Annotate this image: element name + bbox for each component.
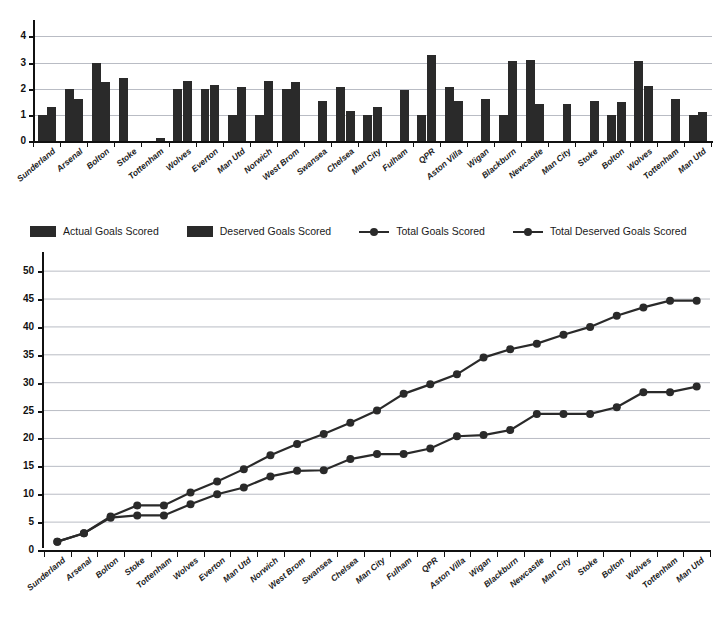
bar-actual: [38, 115, 47, 141]
bar-chart-x-label-text: Bolton: [600, 146, 627, 171]
bar-chart-x-label-text: Man Utd: [676, 146, 708, 175]
line-chart-x-axis-line: [42, 550, 710, 552]
bar-chart-y-tick-label: 4: [8, 31, 26, 41]
line-data-point: [639, 303, 647, 311]
legend-item[interactable]: Actual Goals Scored: [30, 226, 159, 237]
legend-label: Total Goals Scored: [396, 226, 485, 237]
bar-chart-y-tick-label: 1: [8, 110, 26, 120]
line-chart-x-label-text: Fulham: [384, 555, 414, 582]
line-data-point: [320, 466, 328, 474]
line-chart-x-tick: [337, 550, 338, 557]
bar-chart-x-tick: [277, 141, 278, 147]
bar-chart: SunderlandArsenalBoltonStokeTottenhamWol…: [0, 0, 718, 210]
line-chart-x-tick: [470, 550, 471, 557]
line-data-point: [559, 331, 567, 339]
legend-swatch: [187, 226, 213, 237]
line-data-point: [213, 490, 221, 498]
line-chart-y-tick-label: 45: [10, 294, 34, 304]
line-chart-x-tick: [364, 550, 365, 557]
line-data-point: [373, 450, 381, 458]
line-chart-x-tick: [550, 550, 551, 557]
bar-deserved: [373, 107, 382, 141]
bar-chart-y-tick-label: 0: [8, 136, 26, 146]
line-data-point: [266, 451, 274, 459]
bar-chart-x-tick: [169, 141, 170, 147]
line-chart-y-tick-label: 25: [10, 406, 34, 416]
bar-actual: [445, 87, 454, 141]
bar-chart-x-tick: [304, 141, 305, 147]
bar-deserved: [508, 61, 517, 141]
bar-chart-gridline: [34, 63, 712, 64]
bar-chart-x-tick: [494, 141, 495, 147]
bar-chart-x-tick: [548, 141, 549, 147]
legend-item[interactable]: Deserved Goals Scored: [187, 226, 331, 237]
bar-chart-x-tick: [413, 141, 414, 147]
bar-chart-x-tick: [87, 141, 88, 147]
line-data-point: [133, 511, 141, 519]
bar-actual: [417, 115, 426, 141]
bar-chart-x-tick: [250, 141, 251, 147]
bar-chart-y-tick-label: 2: [8, 84, 26, 94]
bar-chart-y-tick-label: 3: [8, 58, 26, 68]
line-chart-y-tick-label: 5: [10, 517, 34, 527]
bar-actual: [282, 89, 291, 141]
bar-chart-x-label-text: Wolves: [164, 146, 193, 173]
line-data-point: [506, 345, 514, 353]
bar-chart-gridline: [34, 89, 712, 90]
bar-deserved: [671, 99, 680, 141]
bar-deserved: [427, 55, 436, 141]
bar-deserved: [47, 107, 56, 141]
line-data-point: [346, 419, 354, 427]
bar-deserved: [74, 99, 83, 141]
line-data-point: [586, 410, 594, 418]
line-data-point: [213, 477, 221, 485]
line-data-point: [639, 388, 647, 396]
line-chart-y-tick-label: 20: [10, 433, 34, 443]
bar-chart-x-tick: [386, 141, 387, 147]
line-data-point: [346, 455, 354, 463]
bar-actual: [201, 89, 210, 141]
line-chart-x-tick: [497, 550, 498, 557]
line-chart-x-label-text: Bolton: [599, 555, 626, 580]
line-data-point: [480, 431, 488, 439]
bar-chart-x-tick: [33, 141, 34, 147]
bar-deserved: [183, 81, 192, 141]
line-data-point: [533, 410, 541, 418]
bar-chart-x-label-text: Everton: [189, 146, 220, 174]
line-chart-x-label-text: Wolves: [171, 555, 200, 582]
line-chart-x-tick: [124, 550, 125, 557]
bar-deserved: [346, 111, 355, 141]
line-data-point: [240, 484, 248, 492]
bar-deserved: [590, 101, 599, 142]
legend-line-dot: [524, 228, 532, 236]
bar-chart-plot-area: [34, 26, 712, 141]
bar-deserved: [318, 101, 327, 142]
bar-deserved: [481, 99, 490, 141]
bar-chart-x-tick: [603, 141, 604, 147]
bar-chart-x-label-text: Fulham: [380, 146, 410, 173]
line-data-point: [400, 450, 408, 458]
line-data-point: [107, 514, 115, 522]
line-chart-svg: [44, 260, 710, 550]
bar-actual: [689, 115, 698, 141]
line-chart-x-label-text: Man Utd: [221, 555, 253, 584]
bar-chart-x-tick: [657, 141, 658, 147]
legend-item[interactable]: Total Deserved Goals Scored: [513, 226, 687, 237]
bar-actual: [363, 115, 372, 141]
line-chart-x-label-text: Bolton: [93, 555, 120, 580]
line-chart: SunderlandArsenalBoltonStokeTottenhamWol…: [0, 250, 718, 619]
line-data-point: [693, 383, 701, 391]
legend-label: Actual Goals Scored: [63, 226, 159, 237]
legend-item[interactable]: Total Goals Scored: [359, 226, 485, 237]
line-data-point: [613, 312, 621, 320]
line-chart-y-tick-label: 0: [10, 545, 34, 555]
bar-chart-x-axis-labels: SunderlandArsenalBoltonStokeTottenhamWol…: [34, 146, 712, 206]
bar-chart-x-tick: [575, 141, 576, 147]
bar-chart-x-label-text: QPR: [416, 146, 437, 166]
line-data-point: [53, 538, 61, 546]
line-data-point: [400, 390, 408, 398]
bar-chart-x-tick: [711, 141, 712, 147]
bar-actual: [119, 78, 128, 141]
line-data-point: [160, 511, 168, 519]
line-chart-x-tick: [71, 550, 72, 557]
